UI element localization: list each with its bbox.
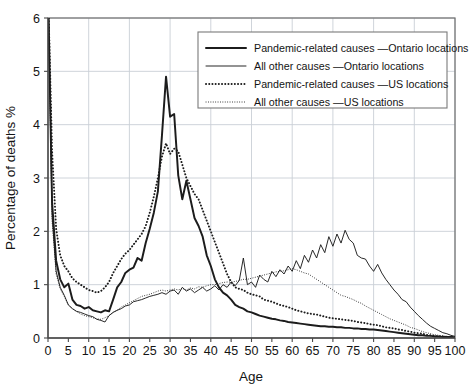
x-tick-label: 30 [163, 344, 177, 358]
x-tick-label: 60 [285, 344, 299, 358]
chart-container: 0510152025303540455055606570758085909510… [0, 0, 474, 390]
x-tick-label: 85 [387, 344, 401, 358]
y-tick-label: 3 [33, 172, 40, 186]
x-axis-title: Age [239, 369, 263, 384]
chart-legend: Pandemic-related causes —Ontario locatio… [198, 32, 468, 108]
y-tick-label: 0 [33, 332, 40, 346]
y-axis-title: Percentage of deaths % [3, 106, 18, 250]
x-tick-label: 10 [82, 344, 96, 358]
x-tick-label: 100 [445, 344, 466, 358]
x-tick-label: 65 [306, 344, 320, 358]
x-tick-label: 95 [428, 344, 442, 358]
x-tick-label: 70 [326, 344, 340, 358]
legend-label: Pandemic-related causes —US locations [254, 78, 448, 90]
line-chart: 0510152025303540455055606570758085909510… [0, 0, 474, 390]
x-tick-label: 5 [65, 344, 72, 358]
x-tick-label: 20 [122, 344, 136, 358]
y-tick-label: 6 [33, 12, 40, 26]
x-tick-label: 45 [224, 344, 238, 358]
y-tick-label: 5 [33, 65, 40, 79]
x-tick-label: 50 [245, 344, 259, 358]
x-tick-label: 35 [183, 344, 197, 358]
x-tick-label: 40 [204, 344, 218, 358]
legend-label: All other causes —US locations [254, 96, 404, 108]
y-tick-label: 2 [33, 225, 40, 239]
y-tick-label: 4 [33, 118, 40, 132]
legend-label: Pandemic-related causes —Ontario locatio… [254, 42, 468, 54]
x-tick-label: 25 [143, 344, 157, 358]
y-tick-label: 1 [33, 278, 40, 292]
x-tick-label: 0 [45, 344, 52, 358]
x-tick-label: 90 [407, 344, 421, 358]
legend-label: All other causes —Ontario locations [254, 60, 424, 72]
x-tick-label: 75 [346, 344, 360, 358]
x-tick-label: 80 [367, 344, 381, 358]
x-tick-label: 15 [102, 344, 116, 358]
x-tick-label: 55 [265, 344, 279, 358]
